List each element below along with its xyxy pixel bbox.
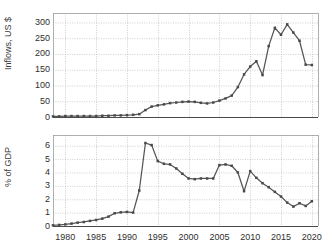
data-point-marker	[169, 102, 172, 105]
data-point-marker	[138, 113, 141, 116]
chart-panel-inflows: Inflows, US $ 050100150200250300	[0, 0, 333, 125]
data-point-marker	[83, 115, 86, 118]
data-point-marker	[274, 27, 277, 30]
data-point-marker	[267, 45, 270, 48]
data-point-marker	[157, 160, 160, 163]
data-point-marker	[132, 211, 135, 214]
data-point-marker	[230, 94, 233, 97]
x-axis-tick-label: 1980	[55, 233, 75, 242]
x-axis-tick-label: 2005	[209, 233, 229, 242]
data-point-marker	[200, 177, 203, 180]
data-point-marker	[107, 114, 110, 117]
data-point-marker	[120, 211, 123, 214]
data-point-marker	[120, 114, 123, 117]
data-point-marker	[224, 163, 227, 166]
data-point-marker	[243, 190, 246, 193]
x-axis-tick-label: 1985	[86, 233, 106, 242]
data-point-marker	[187, 177, 190, 180]
data-point-marker	[193, 101, 196, 104]
data-point-marker	[175, 101, 178, 104]
data-point-marker	[218, 164, 221, 167]
data-point-marker	[126, 211, 129, 214]
data-point-marker	[169, 163, 172, 166]
data-point-marker	[243, 73, 246, 76]
data-point-marker	[286, 201, 289, 204]
x-axis-tick-label: 2000	[179, 233, 199, 242]
data-point-marker	[76, 115, 79, 118]
data-point-marker	[187, 100, 190, 103]
data-point-marker	[181, 101, 184, 104]
data-point-marker	[298, 202, 301, 205]
data-point-marker	[101, 217, 104, 220]
data-point-marker	[200, 102, 203, 105]
x-axis-tick-label: 2015	[271, 233, 291, 242]
data-point-marker	[255, 60, 258, 63]
x-axis-tick-label: 1990	[117, 233, 137, 242]
data-point-marker	[126, 114, 129, 117]
data-point-marker	[193, 178, 196, 181]
data-point-marker	[206, 102, 209, 105]
data-point-marker	[175, 167, 178, 170]
data-point-marker	[261, 74, 264, 77]
data-point-marker	[52, 224, 55, 227]
data-point-marker	[267, 186, 270, 189]
data-point-marker	[113, 114, 116, 117]
data-point-marker	[237, 171, 240, 174]
data-point-marker	[101, 114, 104, 117]
data-point-marker	[95, 115, 98, 118]
data-point-marker	[255, 177, 258, 180]
data-point-marker	[280, 34, 283, 37]
data-point-marker	[150, 144, 153, 147]
data-point-marker	[311, 64, 314, 67]
data-point-marker	[298, 39, 301, 42]
data-point-marker	[224, 97, 227, 100]
data-point-marker	[218, 99, 221, 102]
data-point-marker	[286, 23, 289, 26]
data-point-marker	[212, 177, 215, 180]
data-point-marker	[304, 205, 307, 208]
data-point-marker	[95, 219, 98, 222]
data-point-marker	[144, 142, 147, 145]
data-point-marker	[249, 65, 252, 68]
data-point-marker	[292, 205, 295, 208]
x-axis-tick-label: 2020	[302, 233, 322, 242]
data-point-marker	[261, 182, 264, 185]
data-point-marker	[64, 115, 67, 118]
data-point-marker	[70, 115, 73, 118]
data-point-marker	[230, 165, 233, 168]
data-point-marker	[83, 221, 86, 224]
data-point-marker	[89, 115, 92, 118]
data-point-marker	[311, 200, 314, 203]
data-point-marker	[138, 189, 141, 192]
data-point-marker	[70, 222, 73, 225]
data-point-marker	[181, 173, 184, 176]
two-panel-time-series-figure: Inflows, US $ 050100150200250300 % of GD…	[0, 0, 333, 251]
data-point-marker	[292, 31, 295, 34]
data-point-marker	[157, 104, 160, 107]
data-point-marker	[58, 224, 61, 227]
data-point-marker	[113, 212, 116, 215]
data-point-marker	[89, 220, 92, 223]
data-point-marker	[206, 177, 209, 180]
data-point-marker	[58, 115, 61, 118]
data-point-marker	[163, 103, 166, 106]
plot-area-inflows	[0, 0, 333, 125]
x-axis-tick-label: 2010	[240, 233, 260, 242]
data-point-marker	[76, 221, 79, 224]
data-point-marker	[304, 63, 307, 66]
chart-panel-gdp-share: % of GDP 0123456 19801985199019952000200…	[0, 125, 333, 251]
data-point-marker	[132, 114, 135, 117]
data-point-marker	[237, 86, 240, 89]
data-point-marker	[163, 163, 166, 166]
data-point-marker	[280, 195, 283, 198]
data-point-marker	[64, 223, 67, 226]
data-point-marker	[52, 115, 55, 118]
data-point-marker	[150, 105, 153, 108]
data-point-marker	[212, 101, 215, 104]
x-axis-tick-label: 1995	[148, 233, 168, 242]
data-point-marker	[107, 215, 110, 218]
data-point-marker	[249, 170, 252, 173]
data-point-marker	[274, 191, 277, 194]
data-point-marker	[144, 109, 147, 112]
